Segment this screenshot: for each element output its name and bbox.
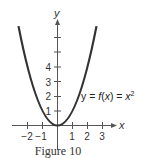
x-tick-label-m1: −1 (35, 131, 47, 142)
x-tick-label-2: 2 (84, 131, 90, 142)
y-tick-label-1: 1 (45, 106, 51, 117)
y-axis-label: y (53, 7, 61, 19)
x-tick-label-1: 1 (69, 131, 75, 142)
x-axis-arrow-icon (111, 123, 117, 128)
figure-caption: Figure 10 (35, 144, 81, 158)
x-tick-label-m2: −2 (21, 131, 33, 142)
parabola-chart: −2 −1 1 2 3 1 2 3 4 x y y = f(x) = x2 Fi… (0, 0, 152, 158)
equation-label: y = f(x) = x2 (81, 90, 135, 102)
y-axis-arrow-icon (55, 19, 60, 25)
y-tick-label-3: 3 (45, 77, 51, 88)
x-axis-label: x (118, 119, 125, 131)
y-tick-label-4: 4 (45, 62, 51, 73)
y-tick-label-2: 2 (45, 91, 51, 102)
x-tick-label-3: 3 (99, 131, 105, 142)
